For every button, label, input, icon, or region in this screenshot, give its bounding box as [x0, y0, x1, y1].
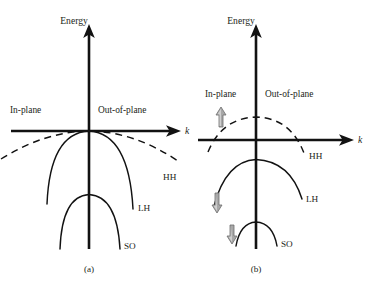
panel-a-k-label: k	[185, 125, 190, 136]
panel-b-band-label-LH: LH	[306, 194, 319, 204]
panel-b-caption: (b)	[251, 264, 262, 274]
panel-a-band-label-SO: SO	[124, 241, 136, 251]
panel-b-out-of-plane-label: Out-of-plane	[265, 89, 313, 99]
band-structure-figure: Energy k In-plane Out-of-plane HH LH SO …	[0, 0, 387, 286]
panel-a-in-plane-label: In-plane	[10, 105, 41, 115]
figure-background	[0, 0, 387, 286]
panel-b-in-plane-label: In-plane	[205, 89, 236, 99]
panel-a-out-of-plane-label: Out-of-plane	[98, 105, 146, 115]
panel-b-energy-label: Energy	[227, 15, 255, 26]
panel-b-k-label: k	[358, 134, 363, 145]
panel-a-energy-label: Energy	[60, 15, 88, 26]
panel-b-band-label-HH: HH	[309, 151, 323, 161]
panel-a-caption: (a)	[84, 264, 94, 274]
panel-a-band-label-HH: HH	[163, 172, 177, 182]
panel-a-band-label-LH: LH	[138, 203, 151, 213]
panel-b-band-label-SO: SO	[281, 239, 293, 249]
